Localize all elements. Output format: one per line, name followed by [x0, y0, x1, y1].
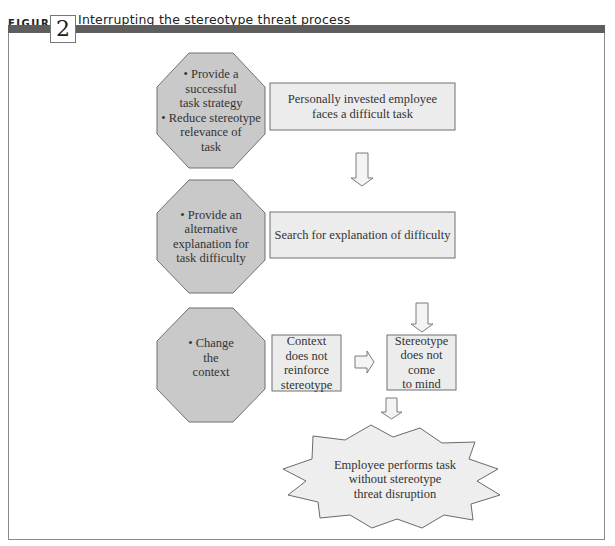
- arrow-right-icon: [355, 351, 374, 373]
- text-line: alternative: [173, 222, 249, 237]
- intervention-text-3: • Change the context: [157, 308, 265, 408]
- text-line: does not: [281, 349, 332, 364]
- text-line: threat disruption: [334, 487, 456, 502]
- text-line: the: [188, 351, 234, 366]
- header-band: [8, 25, 605, 33]
- process-text-2: Search for explanation of difficulty: [270, 212, 455, 258]
- figure-number: 2: [50, 15, 76, 43]
- text-line: successful: [161, 82, 260, 97]
- text-line: task: [161, 140, 260, 155]
- text-line: without stereotype: [334, 472, 456, 487]
- text-line: • Provide a: [161, 67, 260, 82]
- text-line: stereotype: [281, 378, 332, 393]
- process-text-3a: Context does not reinforce stereotype: [272, 335, 341, 391]
- text-line: come: [395, 363, 448, 378]
- text-line: explanation for: [173, 237, 249, 252]
- text-line: faces a difficult task: [288, 107, 437, 122]
- process-text-3b: Stereotype does not come to mind: [387, 335, 456, 390]
- intervention-text-2: • Provide an alternative explanation for…: [157, 180, 265, 293]
- text-line: reinforce: [281, 363, 332, 378]
- process-text-1: Personally invested employee faces a dif…: [270, 83, 455, 130]
- text-line: • Change: [188, 336, 234, 351]
- text-line: Context: [281, 334, 332, 349]
- arrow-down-icon: [351, 153, 373, 186]
- text-line: Stereotype: [395, 334, 448, 349]
- text-line: Search for explanation of difficulty: [274, 228, 450, 243]
- outcome-text: Employee performs task without stereotyp…: [300, 452, 490, 507]
- text-line: • Provide an: [173, 208, 249, 223]
- text-line: relevance of: [161, 125, 260, 140]
- text-line: Personally invested employee: [288, 92, 437, 107]
- text-line: • Reduce stereotype: [161, 111, 260, 126]
- arrow-down-icon: [381, 398, 402, 419]
- text-line: task strategy: [161, 96, 260, 111]
- text-line: does not: [395, 348, 448, 363]
- text-line: task difficulty: [173, 251, 249, 266]
- text-line: Employee performs task: [334, 458, 456, 473]
- intervention-text-1: • Provide a successful task strategy • R…: [157, 53, 265, 168]
- text-line: context: [188, 365, 234, 380]
- arrow-down-icon: [411, 303, 433, 332]
- text-line: to mind: [395, 377, 448, 392]
